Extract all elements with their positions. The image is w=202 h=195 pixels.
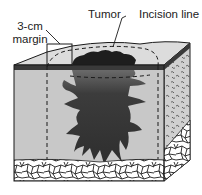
- front-face: [14, 65, 164, 181]
- skin-excision-diagram: [0, 0, 202, 195]
- epidermis-band: [14, 65, 164, 70]
- margin-leader-line: [46, 30, 60, 44]
- subcutaneous-fat: [14, 159, 164, 181]
